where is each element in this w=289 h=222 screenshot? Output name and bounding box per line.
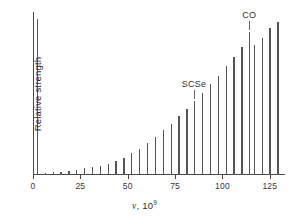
x-axis-tick-label: 125 <box>262 181 277 191</box>
x-axis-tick <box>222 175 223 179</box>
spectral-line <box>262 38 263 175</box>
x-axis-title-separator: , 10 <box>136 200 153 211</box>
annotation-label-scse: SCSe <box>182 79 207 89</box>
spectral-line <box>131 153 132 175</box>
x-axis-tick-label: 25 <box>75 181 85 191</box>
spectral-line <box>218 76 219 175</box>
x-axis-tick <box>33 175 34 179</box>
x-axis-tick <box>80 175 81 179</box>
spectral-line <box>139 149 140 175</box>
spectral-line <box>233 57 234 175</box>
spectral-line <box>108 164 109 175</box>
spectral-line <box>53 172 54 175</box>
spectral-line <box>254 45 255 175</box>
x-axis-tick-label: 75 <box>170 181 180 191</box>
y-axis-title-text: Relative strength <box>32 56 43 131</box>
spectral-line <box>163 130 164 175</box>
plot-area: SCSeCO <box>33 12 285 175</box>
spectral-line <box>92 167 93 175</box>
spectral-line <box>186 109 187 175</box>
spectral-line <box>100 166 101 175</box>
spectral-line <box>76 170 77 175</box>
x-axis-tick <box>175 175 176 179</box>
spectral-line <box>115 161 116 175</box>
spectral-line <box>123 158 124 175</box>
x-axis-tick-label: 0 <box>31 181 36 191</box>
spectral-line <box>210 84 211 175</box>
spectral-line <box>84 168 85 175</box>
spectral-line <box>147 143 148 175</box>
spectral-line <box>277 22 278 175</box>
x-axis-title-exponent: 9 <box>153 199 157 206</box>
spectral-line <box>202 93 203 175</box>
spectral-line <box>178 116 179 175</box>
spectral-line <box>60 172 61 175</box>
annotation-leader-line <box>249 21 250 30</box>
spectral-line <box>226 66 227 175</box>
x-axis-tick <box>128 175 129 179</box>
spectral-line <box>68 171 69 175</box>
spectral-line <box>45 173 46 175</box>
spectral-line <box>249 32 250 175</box>
spectral-line <box>269 28 270 175</box>
spectral-line <box>171 124 172 176</box>
spectral-line <box>241 47 242 175</box>
spectral-line <box>194 101 195 175</box>
x-axis-tick <box>270 175 271 179</box>
spectrum-chart: SCSeCO 0255075100125 Relative strength ν… <box>0 0 289 222</box>
x-axis-tick-label: 100 <box>215 181 230 191</box>
spectral-line <box>155 137 156 175</box>
annotation-leader-line <box>194 90 195 99</box>
x-axis-tick-label: 50 <box>123 181 133 191</box>
annotation-label-co: CO <box>242 10 256 20</box>
y-axis-title: Relative strength <box>2 12 18 175</box>
x-axis-title: ν, 109 <box>0 199 289 211</box>
